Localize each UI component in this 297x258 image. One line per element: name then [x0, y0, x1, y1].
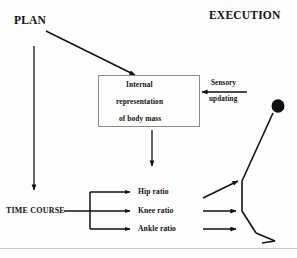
arrow-plan-to-internal-representation: [46, 31, 135, 75]
diagram-vector-layer: [0, 0, 297, 258]
ratio-label-hip: Hip ratio: [138, 188, 169, 196]
internal-representation-line-2: representation: [116, 98, 163, 105]
sensory-updating-line-2: updating: [209, 96, 237, 103]
ratio-label-knee: Knee ratio: [138, 207, 173, 215]
stick-figure-shank-segment: [242, 211, 256, 233]
time-course-label: TIME COURSE: [6, 207, 65, 215]
figure-canvas: PLAN EXECUTION Internal representation o…: [0, 0, 297, 258]
internal-representation-line-3: of body mass: [119, 115, 161, 122]
internal-representation-line-1: Internal: [126, 81, 153, 88]
stick-figure-trunk-segment: [242, 113, 273, 181]
ratio-label-ankle: Ankle ratio: [138, 225, 176, 233]
stick-figure-foot-segment: [256, 233, 275, 241]
heading-execution: EXECUTION: [209, 10, 280, 22]
sensory-updating-line-1: Sensory: [211, 80, 236, 87]
stick-figure-head: [272, 99, 285, 113]
footer-divider: [0, 248, 297, 249]
stick-figure-foot-sole: [262, 241, 275, 243]
heading-plan: PLAN: [14, 15, 46, 27]
arrow-hip-ratio-to-body: [203, 181, 238, 198]
